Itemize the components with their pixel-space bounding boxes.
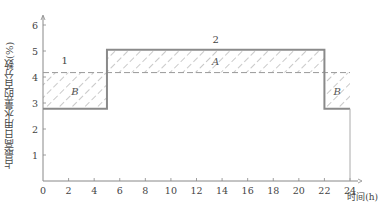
- x-tick-label: 22: [318, 185, 330, 196]
- x-tick-label: 20: [293, 185, 305, 196]
- y-tick-label: 1: [32, 150, 38, 161]
- region-label: B: [70, 86, 78, 97]
- x-tick-label: 16: [242, 185, 254, 196]
- region-label: A: [211, 56, 219, 67]
- hatched-regions: [43, 50, 350, 109]
- chart: 024681012141618202224123456时间(h) BAB12: [0, 0, 384, 220]
- series-label: 1: [62, 55, 68, 66]
- y-tick-label: 2: [32, 124, 38, 135]
- x-tick-label: 14: [216, 185, 228, 196]
- x-tick-label: 18: [267, 185, 279, 196]
- x-tick-label: 10: [165, 185, 177, 196]
- x-axis-label: 时间(h): [347, 191, 378, 202]
- y-tick-label: 3: [32, 98, 38, 109]
- x-tick-label: 12: [190, 185, 202, 196]
- y-tick-label: 6: [32, 20, 38, 31]
- y-tick-label: 5: [32, 46, 38, 57]
- region-label: B: [333, 86, 341, 97]
- x-tick-label: 0: [40, 185, 46, 196]
- series-label: 2: [213, 34, 219, 45]
- x-axis-arrow-icon: [358, 179, 362, 183]
- x-tick-label: 4: [91, 185, 97, 196]
- x-tick-label: 2: [66, 185, 72, 196]
- x-tick-label: 8: [142, 185, 148, 196]
- y-tick-label: 4: [32, 72, 38, 83]
- x-tick-label: 6: [117, 185, 123, 196]
